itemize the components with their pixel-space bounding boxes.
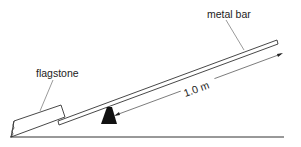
diagram-svg: 1.0 m metal bar flagstone [0,0,301,147]
arrowhead-left-icon [114,112,120,116]
flagstone-label: flagstone [36,67,79,79]
metal-bar-label: metal bar [207,8,251,20]
metal-bar [58,40,278,125]
arrowhead-right-icon [277,53,283,57]
metal-bar-leader [226,20,244,50]
pivot-fulcrum [101,107,117,124]
distance-label: 1.0 m [182,78,211,98]
flagstone-shape [11,105,65,137]
flagstone-leader [40,80,53,111]
lever-diagram: 1.0 m metal bar flagstone [0,0,301,147]
